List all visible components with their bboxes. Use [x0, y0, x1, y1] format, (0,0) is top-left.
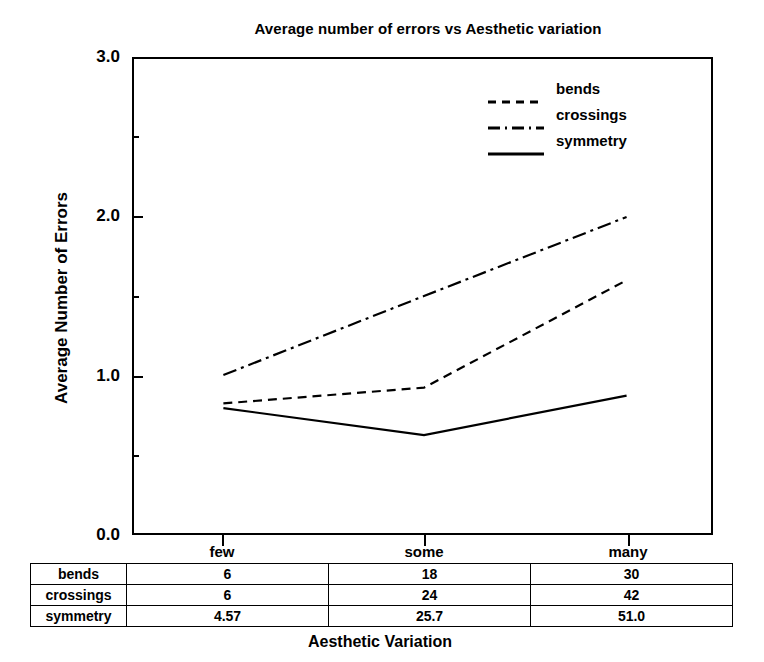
data-table: bends 6 18 30 crossings 6 24 42 symmetry…	[30, 563, 733, 627]
legend-label-crossings: crossings	[556, 106, 627, 123]
legend-solid-icon	[488, 152, 544, 156]
x-tick-label-few: few	[162, 543, 282, 560]
x-axis-label: Aesthetic Variation	[30, 633, 730, 651]
chart-title: Average number of errors vs Aesthetic va…	[132, 20, 724, 37]
table-cell-bends-few: 6	[127, 564, 329, 585]
series-line-bends	[223, 280, 626, 403]
y-axis-label: Average Number of Errors	[52, 88, 72, 508]
x-tick-label-some: some	[364, 543, 484, 560]
table-row: bends 6 18 30	[31, 564, 733, 585]
table-cell-symmetry-few: 4.57	[127, 606, 329, 627]
legend-dashdot-icon	[488, 126, 544, 130]
legend-label-bends: bends	[556, 80, 600, 97]
legend-swatch-symmetry	[488, 142, 544, 146]
y-tick-label-1: 1.0	[62, 366, 120, 386]
table-cell-bends-many: 30	[531, 564, 733, 585]
table-row: symmetry 4.57 25.7 51.0	[31, 606, 733, 627]
y-tick-label-3: 3.0	[62, 47, 120, 67]
table-cell-symmetry-some: 25.7	[329, 606, 531, 627]
legend-swatch-bends	[488, 90, 544, 94]
series-line-crossings	[223, 217, 626, 375]
table-row-header-bends: bends	[31, 564, 127, 585]
table-row: crossings 6 24 42	[31, 585, 733, 606]
table-row-header-crossings: crossings	[31, 585, 127, 606]
chart-legend: bends crossings symmetry	[488, 80, 678, 158]
legend-item-crossings: crossings	[488, 106, 678, 132]
table-cell-crossings-some: 24	[329, 585, 531, 606]
legend-dash-icon	[488, 100, 544, 104]
table-row-header-symmetry: symmetry	[31, 606, 127, 627]
y-tick-label-2: 2.0	[62, 206, 120, 226]
legend-label-symmetry: symmetry	[556, 132, 627, 149]
table-cell-symmetry-many: 51.0	[531, 606, 733, 627]
legend-swatch-crossings	[488, 116, 544, 120]
table-cell-crossings-few: 6	[127, 585, 329, 606]
y-tick-label-0: 0.0	[62, 525, 120, 545]
table-cell-bends-some: 18	[329, 564, 531, 585]
legend-item-symmetry: symmetry	[488, 132, 678, 158]
table-cell-crossings-many: 42	[531, 585, 733, 606]
legend-item-bends: bends	[488, 80, 678, 106]
x-tick-label-many: many	[568, 543, 688, 560]
series-line-symmetry	[223, 396, 626, 435]
chart-figure: Average number of errors vs Aesthetic va…	[0, 0, 764, 662]
